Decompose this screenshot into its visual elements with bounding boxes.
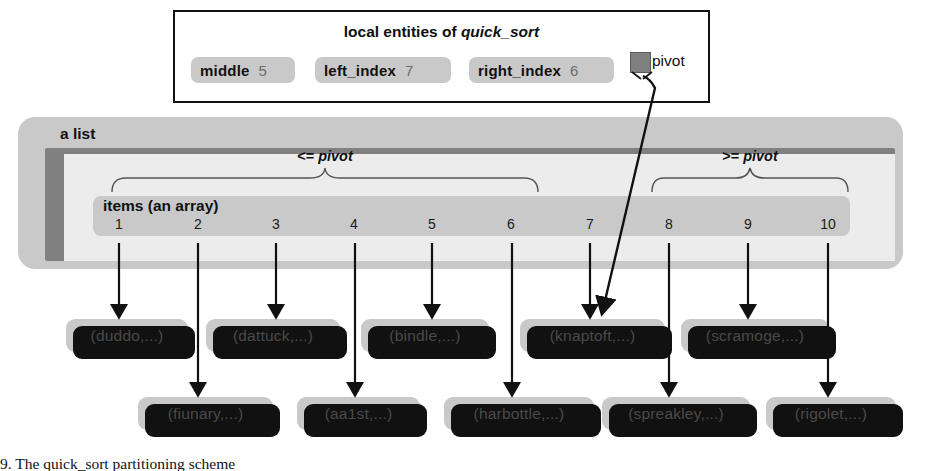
array-index-5: 5 — [428, 216, 436, 232]
entity-right-index-value: 6 — [570, 62, 579, 79]
array-index-3: 3 — [272, 216, 280, 232]
partition-left-label: <= pivot — [110, 148, 540, 164]
item-box-2[interactable]: (fiunary,...) — [138, 397, 273, 430]
item-box-5[interactable]: (bindle,...) — [361, 319, 489, 352]
item-box-3-label: (dattuck,...) — [233, 327, 313, 345]
local-entities-title-routine: quick_sort — [461, 23, 539, 40]
item-box-4[interactable]: (aa1st,...) — [297, 397, 420, 430]
array-index-9: 9 — [744, 216, 752, 232]
items-array-name: items (an array) — [103, 197, 218, 215]
entity-pivot-label: pivot — [652, 52, 685, 69]
array-index-7: 7 — [586, 216, 594, 232]
item-box-7-label: (knaptoft,...) — [550, 327, 636, 345]
entity-left-index-value: 7 — [405, 62, 414, 79]
item-box-7[interactable]: (knaptoft,...) — [520, 319, 665, 352]
item-box-4-label: (aa1st,...) — [325, 405, 393, 423]
partition-right-label: >= pivot — [650, 148, 850, 164]
item-box-6[interactable]: (harbottle,...) — [444, 397, 594, 430]
filled-square-object-icon — [630, 52, 651, 73]
array-index-10: 10 — [820, 216, 836, 232]
array-index-8: 8 — [665, 216, 673, 232]
item-box-6-label: (harbottle,...) — [474, 405, 565, 423]
entity-middle[interactable]: middle 5 — [191, 57, 295, 83]
partition-right-brace: >= pivot — [650, 148, 850, 193]
figure-caption: 9. The quick_sort partitioning scheme — [0, 455, 942, 471]
entity-middle-value: 5 — [259, 62, 268, 79]
partition-right-op: >= — [722, 148, 743, 164]
partition-left-brace: <= pivot — [110, 148, 540, 193]
brace-shape-right-icon — [650, 167, 850, 193]
entity-right-index-name: right_index — [478, 62, 561, 79]
item-box-1-label: (duddo,...) — [91, 327, 164, 345]
item-box-10[interactable]: (rigolet,...) — [766, 397, 896, 430]
array-index-4: 4 — [350, 216, 358, 232]
array-index-2: 2 — [194, 216, 202, 232]
entity-right-index[interactable]: right_index 6 — [469, 57, 614, 83]
entity-left-index-name: left_index — [324, 62, 396, 79]
entity-left-index[interactable]: left_index 7 — [315, 57, 451, 83]
item-box-8[interactable]: (spreakley,...) — [602, 397, 750, 430]
diagram-canvas: local entities of quick_sort middle 5 le… — [0, 0, 942, 471]
item-box-3[interactable]: (dattuck,...) — [206, 319, 340, 352]
item-box-1[interactable]: (duddo,...) — [66, 319, 188, 352]
local-entities-title: local entities of quick_sort — [175, 23, 708, 41]
list-object[interactable]: a list — [18, 117, 903, 269]
entity-pivot-reference[interactable]: pivot — [630, 52, 685, 73]
list-object-name: a list — [60, 125, 95, 143]
item-box-10-label: (rigolet,...) — [795, 405, 867, 423]
item-box-5-label: (bindle,...) — [389, 327, 460, 345]
item-box-8-label: (spreakley,...) — [628, 405, 724, 423]
local-entities-title-prefix: local entities of — [344, 23, 461, 40]
partition-right-ref: pivot — [743, 148, 778, 164]
item-box-2-label: (fiunary,...) — [168, 405, 244, 423]
brace-shape-left-icon — [110, 167, 540, 193]
partition-left-ref: pivot — [318, 148, 353, 164]
item-box-9-label: (scramoge,...) — [706, 327, 804, 345]
partition-left-op: <= — [297, 148, 318, 164]
items-array-bar[interactable]: items (an array) 1 2 3 4 5 6 7 8 9 10 — [93, 196, 850, 236]
array-index-1: 1 — [115, 216, 123, 232]
entity-middle-name: middle — [200, 62, 250, 79]
item-box-9[interactable]: (scramoge,...) — [681, 319, 829, 352]
array-index-6: 6 — [507, 216, 515, 232]
